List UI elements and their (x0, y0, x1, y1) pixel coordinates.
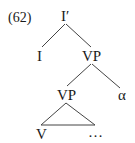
triangle-abbreviation (41, 103, 95, 125)
node-vp-lower: VP (57, 87, 76, 103)
node-ellipsis: … (88, 124, 103, 140)
node-alpha: α (118, 87, 126, 103)
node-i-bar: I′ (61, 8, 69, 24)
node-vp-upper: VP (82, 48, 101, 64)
edge-vp-alpha (92, 64, 120, 88)
edge-ibar-vp (66, 24, 91, 47)
example-number: (62) (8, 10, 32, 26)
edge-ibar-i (42, 24, 65, 47)
node-i: I (37, 48, 42, 64)
node-v: V (36, 126, 47, 142)
edge-vp-vp (67, 64, 91, 86)
syntax-tree-diagram: (62) I′ I VP VP α V … (0, 0, 135, 143)
